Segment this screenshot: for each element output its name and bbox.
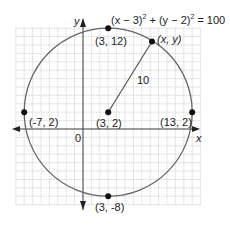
- origin-label: 0: [75, 132, 81, 144]
- label-bottom: (3, -8): [95, 201, 124, 213]
- eq-part2: + (y − 2): [146, 14, 190, 26]
- x-axis-label: x: [195, 132, 202, 144]
- label-right: (13, 2): [160, 116, 192, 128]
- label-top: (3, 12): [95, 35, 127, 47]
- eq-rhs: = 100: [194, 14, 225, 26]
- point-left: [21, 109, 27, 115]
- point-bottom: [105, 193, 111, 199]
- point-right: [189, 109, 195, 115]
- label-general: (x, y): [157, 33, 182, 45]
- y-axis-arrow-down: [80, 201, 86, 210]
- label-left: (-7, 2): [29, 116, 58, 128]
- eq-part1: (x − 3): [111, 14, 142, 26]
- point-center: [105, 109, 111, 115]
- point-top: [105, 25, 111, 31]
- radius-label: 10: [137, 74, 149, 86]
- point-general: [149, 39, 155, 45]
- y-axis-arrow-up: [80, 18, 86, 27]
- circle-diagram: y x 0 (3, 12) (3, 2) (3, -8) (-7, 2) (13…: [0, 0, 230, 225]
- label-center: (3, 2): [96, 117, 122, 129]
- circle-equation: (x − 3)2 + (y − 2)2 = 100: [111, 13, 225, 26]
- y-axis-label: y: [73, 15, 81, 27]
